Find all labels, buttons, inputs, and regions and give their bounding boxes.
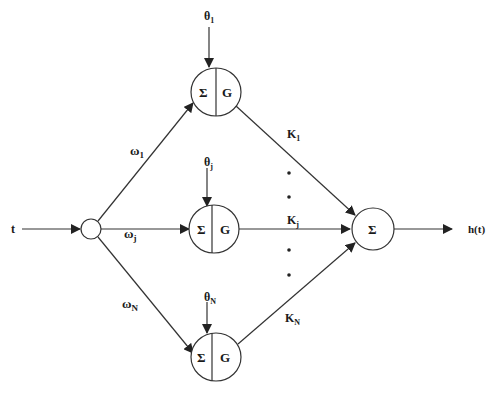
bias-thetaN: θN [204,290,216,333]
svg-text:θ1: θ1 [204,9,214,25]
input-node [81,219,101,239]
output-sum-symbol: Σ [368,222,377,237]
edge-w1 [98,103,193,221]
hidden-node-1: Σ G [191,68,241,116]
bias-thetaj: θj [204,155,213,206]
edge-wN [98,237,193,353]
svg-text:KN: KN [285,311,300,327]
sum-symbol: Σ [197,222,206,237]
sum-symbol: Σ [199,85,208,100]
bias-theta1: θ1 [204,9,214,67]
svg-text:θN: θN [204,290,216,306]
edge-k1 [236,106,355,215]
weight-label-k1: K1 [287,127,300,143]
svg-text:Kj: Kj [287,213,299,229]
svg-text:ω1: ω1 [130,143,145,160]
output-sum-node: Σ [352,208,394,250]
activation-symbol: G [222,85,232,100]
sum-symbol: Σ [197,350,206,365]
svg-text:θj: θj [204,155,213,171]
activation-symbol: G [220,222,230,237]
network-diagram: t ω1 ωj ωN θ1 θj θN Σ G Σ G [0,0,500,394]
hidden-node-N: Σ G [191,333,241,381]
weight-label-kj: Kj [287,213,299,229]
svg-text:K1: K1 [287,127,300,143]
activation-symbol: G [220,350,230,365]
weight-label-kN: KN [285,311,300,327]
weight-label-w1: ω1 [130,143,145,160]
hidden-node-j: Σ G [189,205,239,253]
edge-kN [238,243,355,344]
svg-text:ωN: ωN [122,296,139,313]
input-label: t [11,222,15,236]
weight-label-wN: ωN [122,296,139,313]
output-label: h(t) [468,223,485,236]
